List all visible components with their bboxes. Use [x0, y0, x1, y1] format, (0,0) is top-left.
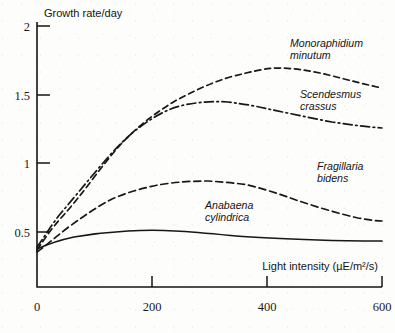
- x-axis-title: Light intensity (µE/m²/s): [262, 260, 378, 272]
- y-tick-label-2: 2: [24, 20, 30, 34]
- x-tick-label-0: 0: [34, 300, 40, 314]
- series-label-anabaena-line1: Anabaena: [204, 199, 253, 211]
- growth-rate-chart-figure: 2 1.5 1 0.5 0 200 400 600 Growth rate/da…: [0, 0, 395, 333]
- chart-canvas: 2 1.5 1 0.5 0 200 400 600 Growth rate/da…: [0, 0, 395, 333]
- series-label-anabaena-line2: cylindrica: [205, 211, 249, 223]
- axis-lines: [37, 22, 382, 287]
- series-label-monoraphidium-line1: Monoraphidium: [290, 37, 363, 49]
- series-label-fragillaria-line2: bidens: [317, 172, 349, 184]
- series-label-scendesmus-line1: Scendesmus: [300, 88, 362, 100]
- y-tick-label-1-5: 1.5: [14, 89, 30, 103]
- y-axis-title: Growth rate/day: [44, 7, 123, 19]
- y-tick-label-1: 1: [24, 157, 30, 171]
- x-tick-label-200: 200: [143, 300, 162, 314]
- x-tick-label-400: 400: [258, 300, 277, 314]
- curve-anabaena-cylindrica: [37, 230, 382, 249]
- y-tick-label-0-5: 0.5: [14, 226, 30, 240]
- series-label-monoraphidium-line2: minutum: [290, 49, 331, 61]
- series-label-scendesmus-line2: crassus: [300, 100, 337, 112]
- series-label-fragillaria-line1: Fragillaria: [317, 160, 364, 172]
- axes-group: [37, 22, 382, 287]
- x-tick-label-600: 600: [373, 300, 392, 314]
